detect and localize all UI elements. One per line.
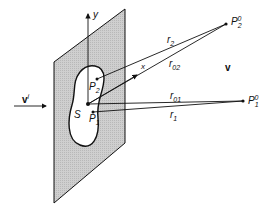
label-x: x: [141, 63, 145, 71]
point-P2-far: [224, 22, 227, 25]
origin-point: [86, 102, 90, 106]
label-P1-far: P10: [248, 94, 258, 108]
label-y: y: [93, 10, 98, 20]
diagram-canvas: [0, 0, 273, 214]
label-P2-far: P20: [231, 15, 241, 29]
label-field-v: v: [225, 63, 231, 73]
label-r02: r02: [169, 59, 180, 71]
label-P1: P1: [89, 114, 100, 126]
label-r1: r1: [170, 110, 177, 122]
label-S: S: [74, 110, 81, 120]
label-r2: r2: [167, 35, 174, 47]
point-P1-far: [241, 99, 244, 102]
label-incident: vi: [22, 93, 29, 105]
label-P2: P2: [89, 82, 100, 94]
label-r01: r01: [170, 91, 181, 103]
